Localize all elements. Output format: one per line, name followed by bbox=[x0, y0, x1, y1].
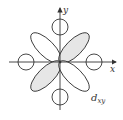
y-axis-label: y bbox=[62, 5, 69, 15]
x-axis-label: x bbox=[110, 64, 115, 74]
origin-point bbox=[59, 61, 62, 64]
dxy-orbital-diagram: y x dxy bbox=[0, 0, 123, 120]
orbital-subscript: xy bbox=[97, 97, 106, 105]
orbital-label: dxy bbox=[91, 92, 106, 105]
